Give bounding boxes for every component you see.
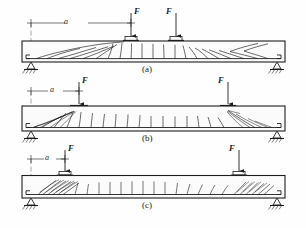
panel-b-roller-support [269, 131, 285, 143]
panel-c-left-load [57, 150, 73, 175]
panel-a-pin-support [23, 62, 39, 74]
panel-a-roller-support [269, 62, 285, 74]
panel-b-left-load [70, 82, 88, 110]
panel-a-right-force-label: F [166, 6, 172, 16]
panel-c-roller-support [269, 198, 285, 210]
panel-c-right-load [231, 150, 247, 175]
panel-b-dimension-label: a [50, 85, 54, 94]
panel-b-right-load [220, 82, 236, 109]
panel-c-right-force-label: F [229, 143, 235, 153]
figure-canvas [0, 0, 306, 228]
panel-b-left-force-label: F [82, 75, 88, 85]
panel-c-caption: (c) [142, 200, 152, 210]
panel-b-group [22, 82, 285, 143]
panel-c-dimension-label: a [45, 153, 49, 162]
panel-a-caption: (a) [142, 64, 152, 74]
panel-a-left-load [123, 13, 139, 41]
beam-crack-pattern-figure: a F F (a) a F F (b) a F F (c) [0, 0, 306, 228]
panel-a-right-load [168, 13, 184, 41]
panel-a-dimension-label: a [64, 17, 68, 26]
panel-a-group [22, 13, 285, 74]
panel-c-group [22, 150, 285, 210]
panel-b-caption: (b) [142, 133, 153, 143]
panel-b-pin-support [23, 131, 39, 143]
panel-c-left-force-label: F [68, 143, 74, 153]
panel-b-right-force-label: F [218, 75, 224, 85]
panel-c-pin-support [23, 198, 39, 210]
panel-a-left-force-label: F [134, 6, 140, 16]
